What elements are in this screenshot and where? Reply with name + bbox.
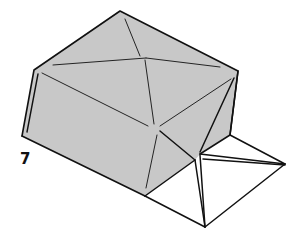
step-number: 7 <box>20 150 30 168</box>
origami-diagram: 7 <box>0 0 302 243</box>
folded-model-illustration <box>0 0 302 243</box>
